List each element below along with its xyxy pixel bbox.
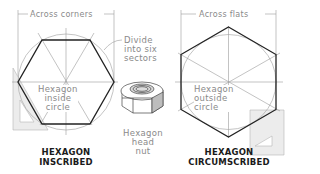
left-inner-label-line-3: circle — [38, 103, 78, 112]
right-title: HEXAGON CIRCUMSCRIBED — [186, 147, 272, 167]
divide-label-leader — [104, 40, 122, 50]
nut-label: Hexagon head nut — [122, 129, 164, 156]
divide-sectors-label: Divide into six sectors — [124, 36, 157, 63]
left-inner-label: Hexagon inside circle — [38, 85, 78, 112]
right-inner-label-line-3: circle — [194, 103, 234, 112]
right-title-line-2: CIRCUMSCRIBED — [186, 157, 272, 167]
left-title-line-1: HEXAGON — [30, 147, 102, 157]
right-inner-label: Hexagon outside circle — [194, 85, 234, 112]
right-title-line-1: HEXAGON — [186, 147, 272, 157]
left-title: HEXAGON INSCRIBED — [30, 147, 102, 167]
nut-label-line-3: nut — [122, 147, 164, 156]
left-title-line-2: INSCRIBED — [30, 157, 102, 167]
divide-label-line-3: sectors — [124, 54, 157, 63]
hex-nut-illustration — [121, 82, 163, 113]
left-dimension-label: Across corners — [30, 10, 93, 19]
right-dimension-label: Across flats — [199, 10, 248, 19]
